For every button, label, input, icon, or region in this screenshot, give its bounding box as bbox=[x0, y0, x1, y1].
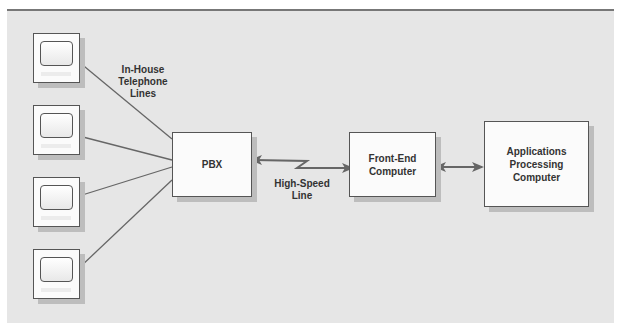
applications-label: Applications Processing Computer bbox=[506, 145, 566, 184]
terminal-screen bbox=[40, 257, 73, 282]
applications-processing-computer-box: Applications Processing Computer bbox=[484, 121, 589, 207]
terminal-screen bbox=[40, 185, 73, 210]
telephone-line-4 bbox=[79, 180, 172, 268]
label-line: Computer bbox=[506, 171, 566, 184]
terminal-icon bbox=[33, 177, 80, 227]
terminal-base bbox=[41, 144, 71, 148]
terminal-base bbox=[41, 72, 71, 76]
front-end-computer-box: Front-End Computer bbox=[349, 132, 436, 197]
high-speed-line bbox=[252, 160, 352, 168]
label-line: Applications bbox=[506, 145, 566, 158]
label-line: Processing bbox=[506, 158, 566, 171]
label-line: In-House bbox=[108, 64, 178, 76]
terminal-icon bbox=[33, 33, 80, 83]
terminal-icon bbox=[33, 105, 80, 155]
pbx-label: PBX bbox=[202, 158, 223, 171]
terminal-screen bbox=[40, 113, 73, 138]
label-line: High-Speed bbox=[267, 178, 337, 190]
label-line: Telephone bbox=[108, 76, 178, 88]
terminal-screen bbox=[40, 41, 73, 66]
label-line: Computer bbox=[369, 165, 417, 178]
telephone-line-2 bbox=[79, 136, 172, 160]
terminal-icon bbox=[33, 249, 80, 299]
front-end-label: Front-End Computer bbox=[369, 152, 417, 178]
terminal-base bbox=[41, 288, 71, 292]
terminal-base bbox=[41, 216, 71, 220]
pbx-box: PBX bbox=[172, 132, 252, 197]
label-line: Line bbox=[267, 190, 337, 202]
label-line: Front-End bbox=[369, 152, 417, 165]
label-line: Lines bbox=[108, 88, 178, 100]
telephone-line-3 bbox=[79, 167, 172, 196]
high-speed-line-label: High-Speed Line bbox=[267, 178, 337, 202]
telephone-lines-label: In-House Telephone Lines bbox=[108, 64, 178, 100]
